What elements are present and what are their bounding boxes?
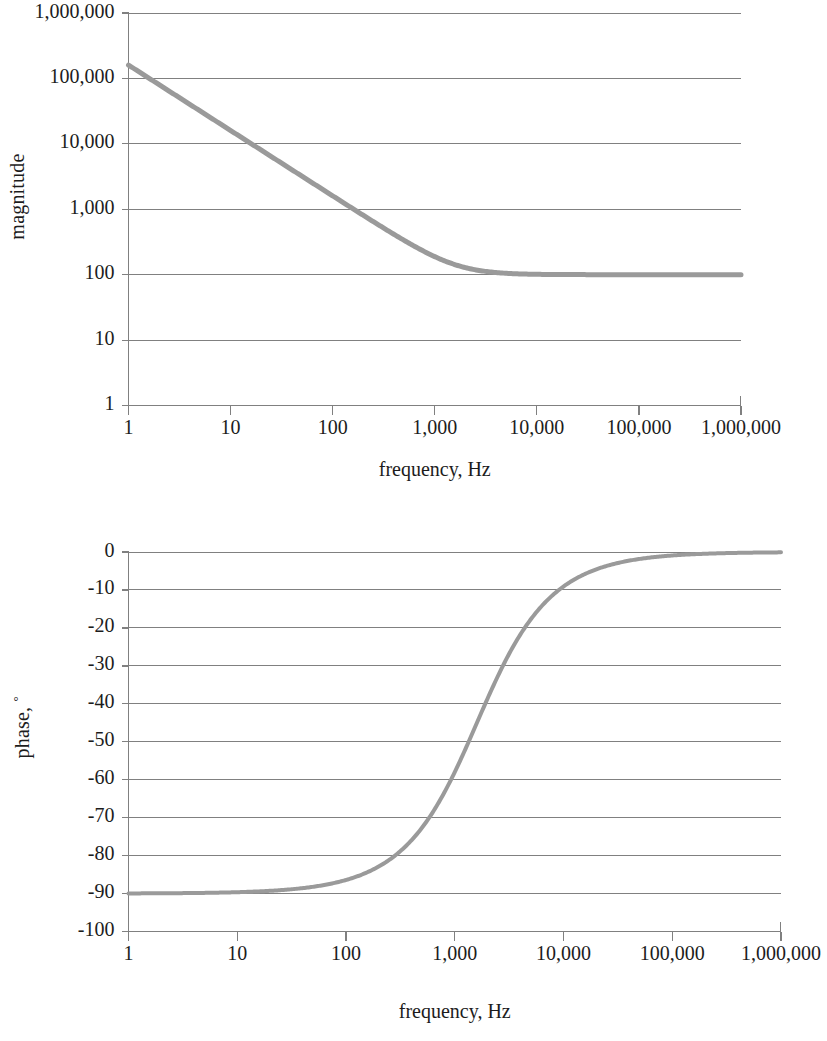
- phase-x-tick-label: 1,000: [432, 942, 477, 964]
- magnitude-y-axis-label: magnitude: [6, 147, 29, 247]
- phase-y-tick-label: -70: [88, 804, 115, 826]
- magnitude-y-tick-label: 1,000: [70, 196, 115, 218]
- magnitude-x-tick-label: 1: [124, 416, 134, 438]
- magnitude-x-tick-label: 1,000,000: [701, 416, 781, 438]
- magnitude-curve: [129, 65, 742, 275]
- phase-gridlines: [129, 552, 782, 932]
- phase-y-tick-label: -40: [88, 690, 115, 712]
- phase-y-axis-label-text: phase,: [11, 702, 33, 759]
- phase-x-tick-labels: 1101001,00010,000100,0001,000,000: [124, 942, 822, 964]
- magnitude-chart-canvas: 1101001,00010,000100,0001,000,000 110100…: [0, 0, 827, 440]
- phase-y-tick-labels: 0-10-20-30-40-50-60-70-80-90-100: [78, 539, 115, 941]
- magnitude-x-tick-label: 100: [318, 416, 348, 438]
- phase-tickmarks: [122, 552, 782, 941]
- phase-x-tick-label: 10: [227, 942, 247, 964]
- phase-y-tick-label: -50: [88, 728, 115, 750]
- phase-x-tick-label: 10,000: [536, 942, 591, 964]
- phase-y-tick-label: -90: [88, 880, 115, 902]
- phase-curve: [129, 552, 782, 893]
- phase-y-tick-label: -20: [88, 614, 115, 636]
- magnitude-y-tick-label: 100,000: [50, 65, 115, 87]
- magnitude-plot: magnitude 1101001,00010,000100,0001,000,…: [0, 0, 827, 500]
- magnitude-y-tick-label: 10: [95, 327, 115, 349]
- magnitude-x-tick-label: 10,000: [509, 416, 564, 438]
- phase-x-tick-label: 100,000: [640, 942, 705, 964]
- magnitude-x-tick-label: 100,000: [606, 416, 671, 438]
- phase-chart-canvas: 0-10-20-30-40-50-60-70-80-90-100 1101001…: [0, 530, 827, 970]
- magnitude-y-tick-labels: 1101001,00010,000100,0001,000,000: [35, 0, 115, 414]
- phase-x-tick-label: 1,000,000: [741, 942, 821, 964]
- phase-y-tick-label: -100: [78, 918, 115, 940]
- magnitude-x-tick-labels: 1101001,00010,000100,0001,000,000: [124, 416, 782, 438]
- magnitude-x-axis-label: frequency, Hz: [129, 458, 742, 481]
- degree-icon: °: [10, 696, 25, 701]
- phase-y-tick-label: -80: [88, 842, 115, 864]
- magnitude-x-tick-label: 10: [221, 416, 241, 438]
- phase-x-tick-label: 100: [331, 942, 361, 964]
- magnitude-y-tick-label: 10,000: [60, 130, 115, 152]
- phase-y-axis-label: phase, °: [10, 677, 35, 777]
- phase-x-tick-label: 1: [124, 942, 134, 964]
- phase-y-tick-label: 0: [105, 539, 115, 561]
- magnitude-x-tick-label: 1,000: [412, 416, 457, 438]
- phase-y-tick-label: -30: [88, 652, 115, 674]
- magnitude-gridlines: [129, 13, 742, 406]
- phase-y-tick-label: -10: [88, 576, 115, 598]
- bode-plot-figure: magnitude 1101001,00010,000100,0001,000,…: [0, 0, 827, 1041]
- phase-plot: phase, ° 0-10-20-30-40-50-60-70-80-90-10…: [0, 530, 827, 1041]
- phase-x-axis-label: frequency, Hz: [129, 1000, 782, 1023]
- magnitude-y-tick-label: 1: [105, 392, 115, 414]
- phase-y-tick-label: -60: [88, 766, 115, 788]
- magnitude-y-tick-label: 1,000,000: [35, 0, 115, 22]
- magnitude-y-tick-label: 100: [85, 261, 115, 283]
- magnitude-tickmarks: [122, 13, 742, 415]
